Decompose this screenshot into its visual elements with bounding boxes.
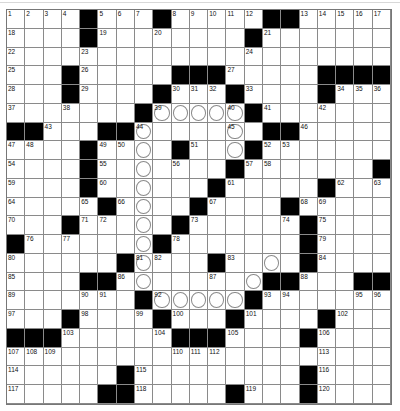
answer-cell[interactable]: 51 xyxy=(190,141,208,160)
answer-cell[interactable] xyxy=(135,273,153,292)
answer-cell[interactable] xyxy=(373,104,391,123)
answer-cell[interactable]: 87 xyxy=(208,273,226,292)
answer-cell[interactable] xyxy=(98,310,116,329)
answer-cell[interactable]: 69 xyxy=(318,198,336,217)
answer-cell[interactable] xyxy=(98,66,116,85)
answer-cell[interactable] xyxy=(354,385,372,404)
answer-cell[interactable] xyxy=(281,179,299,198)
answer-cell[interactable]: 120 xyxy=(318,385,336,404)
answer-cell[interactable]: 8 xyxy=(172,10,190,29)
answer-cell[interactable] xyxy=(153,198,171,217)
answer-cell[interactable] xyxy=(153,366,171,385)
answer-cell[interactable]: 38 xyxy=(62,104,80,123)
answer-cell[interactable] xyxy=(300,141,318,160)
answer-cell[interactable] xyxy=(44,66,62,85)
answer-cell[interactable] xyxy=(208,310,226,329)
answer-cell[interactable] xyxy=(208,291,226,310)
answer-cell[interactable]: 30 xyxy=(172,85,190,104)
answer-cell[interactable]: 46 xyxy=(300,123,318,142)
answer-cell[interactable] xyxy=(208,216,226,235)
answer-cell[interactable] xyxy=(117,291,135,310)
answer-cell[interactable] xyxy=(245,179,263,198)
answer-cell[interactable] xyxy=(62,179,80,198)
answer-cell[interactable]: 95 xyxy=(354,291,372,310)
answer-cell[interactable] xyxy=(98,85,116,104)
answer-cell[interactable]: 90 xyxy=(80,291,98,310)
answer-cell[interactable] xyxy=(44,179,62,198)
answer-cell[interactable] xyxy=(281,254,299,273)
answer-cell[interactable] xyxy=(80,329,98,348)
answer-cell[interactable] xyxy=(80,348,98,367)
answer-cell[interactable]: 116 xyxy=(318,366,336,385)
answer-cell[interactable] xyxy=(373,29,391,48)
answer-cell[interactable] xyxy=(62,254,80,273)
answer-cell[interactable] xyxy=(373,385,391,404)
answer-cell[interactable] xyxy=(80,235,98,254)
answer-cell[interactable] xyxy=(135,48,153,67)
answer-cell[interactable] xyxy=(135,348,153,367)
answer-cell[interactable] xyxy=(190,160,208,179)
answer-cell[interactable] xyxy=(208,123,226,142)
answer-cell[interactable] xyxy=(172,104,190,123)
answer-cell[interactable] xyxy=(172,273,190,292)
answer-cell[interactable] xyxy=(25,104,43,123)
answer-cell[interactable] xyxy=(263,179,281,198)
answer-cell[interactable] xyxy=(44,85,62,104)
answer-cell[interactable]: 99 xyxy=(135,310,153,329)
answer-cell[interactable] xyxy=(25,310,43,329)
answer-cell[interactable]: 60 xyxy=(98,179,116,198)
answer-cell[interactable]: 18 xyxy=(7,29,25,48)
answer-cell[interactable]: 93 xyxy=(263,291,281,310)
answer-cell[interactable]: 25 xyxy=(7,66,25,85)
answer-cell[interactable]: 94 xyxy=(281,291,299,310)
answer-cell[interactable] xyxy=(281,235,299,254)
answer-cell[interactable] xyxy=(300,179,318,198)
answer-cell[interactable] xyxy=(300,85,318,104)
answer-cell[interactable]: 11 xyxy=(226,10,244,29)
answer-cell[interactable] xyxy=(373,329,391,348)
answer-cell[interactable] xyxy=(117,310,135,329)
answer-cell[interactable] xyxy=(336,385,354,404)
answer-cell[interactable] xyxy=(336,329,354,348)
answer-cell[interactable] xyxy=(336,104,354,123)
answer-cell[interactable] xyxy=(318,48,336,67)
answer-cell[interactable] xyxy=(98,329,116,348)
answer-cell[interactable] xyxy=(172,48,190,67)
answer-cell[interactable] xyxy=(190,29,208,48)
answer-cell[interactable] xyxy=(263,216,281,235)
answer-cell[interactable] xyxy=(373,348,391,367)
answer-cell[interactable]: 5 xyxy=(98,10,116,29)
answer-cell[interactable] xyxy=(25,85,43,104)
answer-cell[interactable]: 35 xyxy=(354,85,372,104)
answer-cell[interactable]: 89 xyxy=(7,291,25,310)
answer-cell[interactable] xyxy=(300,160,318,179)
answer-cell[interactable]: 79 xyxy=(318,235,336,254)
answer-cell[interactable]: 13 xyxy=(300,10,318,29)
answer-cell[interactable]: 70 xyxy=(7,216,25,235)
answer-cell[interactable] xyxy=(263,348,281,367)
answer-cell[interactable] xyxy=(44,104,62,123)
answer-cell[interactable]: 55 xyxy=(98,160,116,179)
answer-cell[interactable] xyxy=(117,48,135,67)
answer-cell[interactable] xyxy=(318,29,336,48)
answer-cell[interactable] xyxy=(226,273,244,292)
answer-cell[interactable] xyxy=(172,198,190,217)
answer-cell[interactable]: 12 xyxy=(245,10,263,29)
answer-cell[interactable] xyxy=(263,198,281,217)
answer-cell[interactable] xyxy=(117,235,135,254)
answer-cell[interactable]: 66 xyxy=(117,198,135,217)
answer-cell[interactable] xyxy=(208,29,226,48)
answer-cell[interactable] xyxy=(281,48,299,67)
answer-cell[interactable] xyxy=(245,66,263,85)
answer-cell[interactable]: 104 xyxy=(153,329,171,348)
answer-cell[interactable] xyxy=(226,348,244,367)
answer-cell[interactable]: 22 xyxy=(7,48,25,67)
answer-cell[interactable] xyxy=(226,29,244,48)
answer-cell[interactable]: 85 xyxy=(7,273,25,292)
answer-cell[interactable] xyxy=(62,123,80,142)
answer-cell[interactable] xyxy=(190,254,208,273)
answer-cell[interactable]: 6 xyxy=(117,10,135,29)
answer-cell[interactable]: 92 xyxy=(153,291,171,310)
answer-cell[interactable] xyxy=(80,385,98,404)
answer-cell[interactable]: 68 xyxy=(300,198,318,217)
